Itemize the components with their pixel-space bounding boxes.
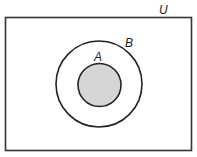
set-b-label: B xyxy=(125,36,133,50)
set-a-circle xyxy=(78,64,121,107)
set-a-label: A xyxy=(93,50,102,64)
venn-diagram: U B A xyxy=(0,0,197,157)
universe-label: U xyxy=(159,3,168,17)
